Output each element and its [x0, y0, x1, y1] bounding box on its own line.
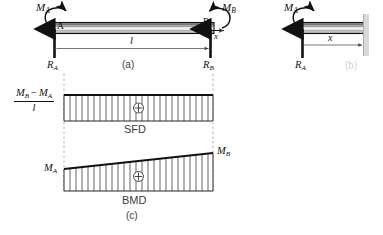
moment-label-right-a: MB	[222, 2, 236, 14]
moment-label-b-panel: MA	[284, 2, 298, 14]
panel-a-group	[45, 8, 230, 58]
beam-bar	[51, 23, 214, 34]
node-label-b: B	[203, 18, 209, 28]
sfd-label: SFD	[124, 124, 146, 135]
bmd-right-value-label: MB	[217, 146, 230, 158]
figure-vector-layer	[0, 0, 383, 235]
caption-a: (a)	[122, 60, 134, 70]
reaction-label-ra: RA	[47, 60, 58, 72]
span-length-label: l	[130, 36, 133, 47]
x-axis-label-a: x	[214, 32, 218, 41]
caption-b: (b)	[345, 61, 357, 71]
node-label-a: A	[57, 22, 64, 32]
sfd-fraction-denominator: l	[14, 103, 54, 114]
moment-label-left-a: MA	[36, 2, 50, 14]
bmd-positive-sign-icon	[134, 172, 144, 182]
bmd-group	[64, 153, 213, 191]
x-distance-label: x	[328, 33, 332, 43]
sfd-value-fraction: MB−MA l	[14, 88, 54, 113]
sfd-group	[64, 95, 213, 121]
reaction-label-b-panel: RA	[295, 60, 306, 72]
bmd-label: BMD	[122, 195, 146, 206]
sfd-fraction-numerator: MB−MA	[14, 88, 54, 101]
sfd-positive-sign-icon	[134, 103, 144, 113]
bmd-left-value-label: MA	[44, 163, 57, 175]
caption-c: (c)	[126, 211, 138, 221]
figure-canvas: MA MB A B x l RA RB (a) MA x RA (b) MB−M…	[0, 0, 383, 235]
section-cut-band	[363, 14, 369, 56]
reaction-label-rb: RB	[203, 60, 214, 72]
